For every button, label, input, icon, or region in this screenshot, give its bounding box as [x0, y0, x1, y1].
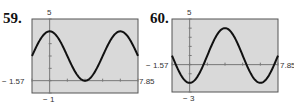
plot-area-1	[172, 19, 278, 92]
plot-area-0	[32, 19, 138, 93]
graphs-canvas	[0, 0, 294, 105]
